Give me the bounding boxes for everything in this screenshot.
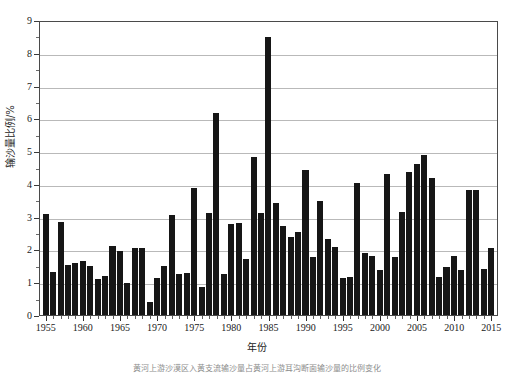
bar bbox=[332, 247, 338, 315]
x-axis-minor-tick bbox=[432, 316, 433, 319]
plot-area bbox=[39, 21, 498, 316]
y-axis: 0123456789 bbox=[0, 21, 39, 316]
y-axis-tick-label: 0 bbox=[27, 311, 32, 321]
x-axis-minor-tick bbox=[261, 316, 262, 319]
bar bbox=[109, 246, 115, 315]
bar bbox=[362, 253, 368, 315]
bar bbox=[458, 270, 464, 315]
x-axis-minor-tick bbox=[358, 316, 359, 319]
x-axis-tick-label: 1965 bbox=[110, 323, 130, 333]
x-axis-minor-tick bbox=[202, 316, 203, 319]
x-axis-minor-tick bbox=[320, 316, 321, 319]
x-axis-tick-label: 1970 bbox=[147, 323, 167, 333]
y-axis-tick-label: 3 bbox=[27, 213, 32, 223]
bar bbox=[369, 256, 375, 315]
x-axis-minor-tick bbox=[395, 316, 396, 319]
bar bbox=[117, 251, 123, 315]
x-axis-title: 年份 bbox=[0, 339, 514, 354]
bar bbox=[169, 215, 175, 315]
x-axis-minor-tick bbox=[246, 316, 247, 319]
x-axis-minor-tick bbox=[150, 316, 151, 319]
bar bbox=[184, 273, 190, 315]
x-axis-minor-tick bbox=[447, 316, 448, 319]
x-axis-minor-tick bbox=[469, 316, 470, 319]
x-axis-minor-tick bbox=[179, 316, 180, 319]
x-axis-minor-tick bbox=[476, 316, 477, 319]
x-axis-tick-label: 1975 bbox=[184, 323, 204, 333]
x-axis-minor-tick bbox=[365, 316, 366, 319]
bar bbox=[354, 183, 360, 315]
x-axis-tick-label: 1960 bbox=[73, 323, 93, 333]
bar bbox=[251, 157, 257, 315]
x-axis-minor-tick bbox=[276, 316, 277, 319]
x-axis-tick bbox=[306, 316, 307, 321]
figure-caption: 黄河上游沙漠区入黄支流输沙量占黄河上游耳沟断面输沙量的比例变化 bbox=[0, 362, 514, 373]
bar bbox=[206, 213, 212, 315]
bar bbox=[347, 277, 353, 315]
x-axis-tick-label: 2000 bbox=[370, 323, 390, 333]
bar bbox=[154, 278, 160, 315]
x-axis-minor-tick bbox=[410, 316, 411, 319]
x-axis-minor-tick bbox=[53, 316, 54, 319]
bar bbox=[213, 113, 219, 315]
x-axis-minor-tick bbox=[68, 316, 69, 319]
bar bbox=[258, 213, 264, 315]
bar bbox=[199, 287, 205, 315]
bar bbox=[102, 276, 108, 315]
x-axis-minor-tick bbox=[313, 316, 314, 319]
bar bbox=[228, 224, 234, 315]
x-axis-minor-tick bbox=[217, 316, 218, 319]
x-axis-minor-tick bbox=[165, 316, 166, 319]
bar bbox=[43, 214, 49, 315]
x-axis-minor-tick bbox=[402, 316, 403, 319]
x-axis-tick-label: 1955 bbox=[36, 323, 56, 333]
x-axis-minor-tick bbox=[424, 316, 425, 319]
x-axis-tick-label: 2015 bbox=[481, 323, 501, 333]
x-axis-tick bbox=[120, 316, 121, 321]
bar bbox=[377, 270, 383, 315]
x-axis-tick bbox=[231, 316, 232, 321]
y-axis-tick-label: 4 bbox=[27, 180, 32, 190]
x-axis-tick bbox=[194, 316, 195, 321]
x-axis-minor-tick bbox=[98, 316, 99, 319]
bar bbox=[302, 170, 308, 315]
y-axis-tick-label: 5 bbox=[27, 147, 32, 157]
x-axis-tick bbox=[417, 316, 418, 321]
bar bbox=[451, 256, 457, 315]
x-axis-minor-tick bbox=[90, 316, 91, 319]
bar bbox=[65, 265, 71, 315]
x-axis-minor-tick bbox=[328, 316, 329, 319]
x-axis-minor-tick bbox=[172, 316, 173, 319]
x-axis: 1955196019651970197519801985199019952000… bbox=[39, 316, 498, 340]
bar bbox=[384, 174, 390, 315]
bar bbox=[392, 257, 398, 315]
bar bbox=[50, 272, 56, 315]
figure-container: 输沙量比例/% 0123456789 195519601965197019751… bbox=[0, 0, 514, 374]
bar bbox=[80, 261, 86, 315]
x-axis-minor-tick bbox=[350, 316, 351, 319]
x-axis-minor-tick bbox=[209, 316, 210, 319]
bar bbox=[295, 232, 301, 315]
y-axis-tick-label: 7 bbox=[27, 82, 32, 92]
x-axis-tick bbox=[269, 316, 270, 321]
x-axis-minor-tick bbox=[142, 316, 143, 319]
bar bbox=[429, 178, 435, 315]
x-axis-minor-tick bbox=[372, 316, 373, 319]
bar bbox=[310, 257, 316, 315]
bar bbox=[414, 164, 420, 315]
y-axis-tick-label: 2 bbox=[27, 245, 32, 255]
bar bbox=[191, 188, 197, 315]
bar bbox=[236, 223, 242, 315]
bar bbox=[325, 239, 331, 315]
x-axis-tick-label: 1990 bbox=[296, 323, 316, 333]
y-axis-tick-label: 9 bbox=[27, 16, 32, 26]
x-axis-minor-tick bbox=[439, 316, 440, 319]
bar bbox=[124, 283, 130, 315]
x-axis-tick bbox=[491, 316, 492, 321]
x-axis-minor-tick bbox=[254, 316, 255, 319]
y-axis-tick-label: 8 bbox=[27, 49, 32, 59]
bar bbox=[132, 248, 138, 315]
bar bbox=[340, 278, 346, 315]
x-axis-minor-tick bbox=[239, 316, 240, 319]
x-axis-tick-label: 1995 bbox=[333, 323, 353, 333]
